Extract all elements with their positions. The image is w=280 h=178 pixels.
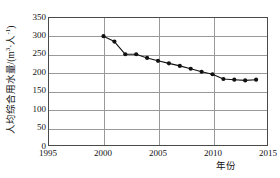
series-line xyxy=(104,36,257,80)
data-point-marker xyxy=(200,70,204,74)
data-point-marker xyxy=(210,72,214,76)
data-point-marker xyxy=(112,40,116,44)
data-series xyxy=(49,18,267,145)
data-point-marker xyxy=(243,78,247,82)
chart-figure: 人均综合用水量/(m3·人-1) 050100150200250300350 1… xyxy=(0,0,280,178)
data-point-marker xyxy=(123,52,127,56)
y-axis-tick-label: 100 xyxy=(14,105,46,114)
y-axis-label-superscript-cubic: 3 xyxy=(4,48,12,52)
y-axis-tick-label: 200 xyxy=(14,68,46,77)
x-axis-tick-label: 2000 xyxy=(83,148,123,158)
data-point-marker xyxy=(221,77,225,81)
y-axis-label-superscript-inverse: -1 xyxy=(4,29,12,35)
data-point-marker xyxy=(101,34,105,38)
x-axis-tick-label: 2005 xyxy=(138,148,178,158)
y-axis-tick-label: 50 xyxy=(14,123,46,132)
x-axis-tick-label: 2015 xyxy=(248,148,280,158)
data-point-marker xyxy=(178,64,182,68)
x-axis-label: 年份 xyxy=(196,161,256,172)
y-axis-label: 人均综合用水量/(m3·人-1) xyxy=(1,5,15,155)
data-point-marker xyxy=(134,52,138,56)
y-axis-tick-label: 300 xyxy=(14,31,46,40)
data-point-marker xyxy=(156,59,160,63)
data-point-marker xyxy=(254,78,258,82)
plot-area xyxy=(48,17,268,146)
x-axis-tick-labels: 19952000200520102015 xyxy=(0,148,280,162)
data-point-marker xyxy=(167,61,171,65)
y-axis-tick-label: 150 xyxy=(14,86,46,95)
data-point-marker xyxy=(232,78,236,82)
data-point-marker xyxy=(145,56,149,60)
data-point-marker xyxy=(189,67,193,71)
x-axis-tick-label: 1995 xyxy=(28,148,68,158)
y-axis-tick-label: 250 xyxy=(14,49,46,58)
y-axis-tick-label: 350 xyxy=(14,13,46,22)
x-axis-tick-label: 2010 xyxy=(193,148,233,158)
